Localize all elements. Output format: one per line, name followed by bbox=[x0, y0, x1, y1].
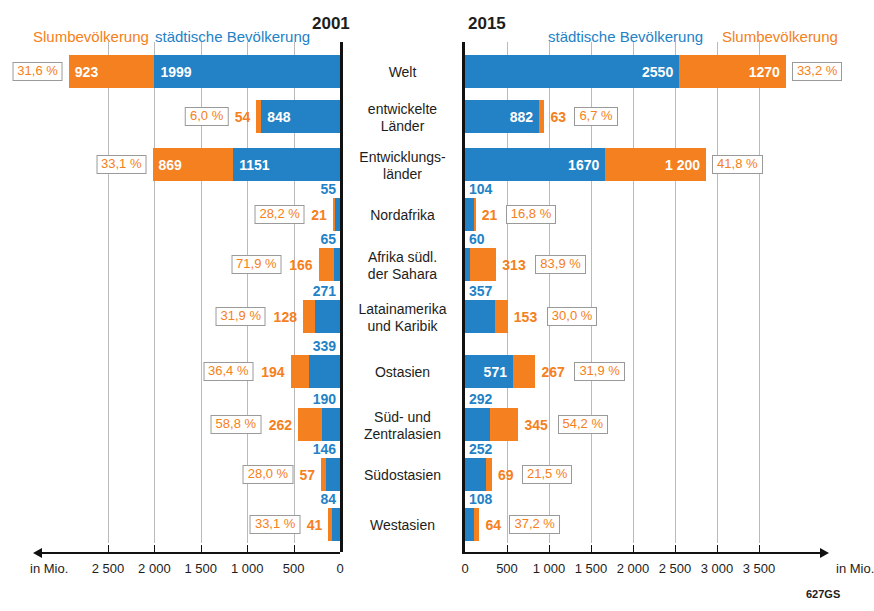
axis-tick-right[interactable] bbox=[759, 545, 760, 552]
axis-tick-right[interactable] bbox=[507, 545, 508, 552]
axis-line-right[interactable] bbox=[462, 552, 820, 554]
axis-arrow-right[interactable] bbox=[820, 548, 829, 558]
axes-layer: 2 5002 0001 5001 0005000in Mio.05001 000… bbox=[0, 0, 874, 611]
axis-tick-right[interactable] bbox=[717, 545, 718, 552]
axis-arrow-left[interactable] bbox=[33, 548, 42, 558]
axis-tick-left[interactable] bbox=[108, 545, 109, 552]
axis-tick-right[interactable] bbox=[591, 545, 592, 552]
axis-tick-label-left[interactable]: 0 bbox=[300, 561, 380, 576]
axis-tick-right[interactable] bbox=[675, 545, 676, 552]
zero-axis-right[interactable] bbox=[462, 42, 465, 552]
axis-tick-right[interactable] bbox=[549, 545, 550, 552]
axis-line-left[interactable] bbox=[42, 552, 340, 554]
axis-tick-right[interactable] bbox=[633, 545, 634, 552]
zero-axis-left[interactable] bbox=[340, 42, 343, 552]
axis-tick-left[interactable] bbox=[247, 545, 248, 552]
axis-tick-left[interactable] bbox=[201, 545, 202, 552]
source-code: 627GS bbox=[806, 588, 840, 600]
axis-tick-left[interactable] bbox=[294, 545, 295, 552]
axis-tick-left[interactable] bbox=[154, 545, 155, 552]
axis-tick-label-right[interactable]: 3 500 bbox=[719, 561, 799, 576]
axis-unit-left[interactable]: in Mio. bbox=[30, 561, 68, 576]
axis-unit-right[interactable]: in Mio. bbox=[836, 561, 874, 576]
chart-canvas: Slumbevölkerung städtische Bevölkerung 2… bbox=[0, 0, 874, 611]
